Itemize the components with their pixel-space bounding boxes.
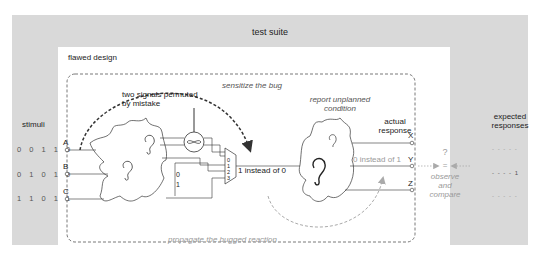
output-label-x: X xyxy=(408,131,413,140)
bug-value-label: 1 instead of 0 xyxy=(238,166,286,175)
compare-equals: = xyxy=(437,161,453,170)
constant-0: 0 xyxy=(176,170,180,179)
input-label-c: C xyxy=(63,187,69,196)
output-label-y: Y xyxy=(408,155,413,164)
input-label-a: A xyxy=(63,138,68,147)
permute-note: two signals permuted by mistake xyxy=(122,90,198,108)
input-module-blob xyxy=(90,118,167,201)
response-value-label: 0 instead of 1 xyxy=(353,155,401,164)
compare-question: ? xyxy=(437,148,453,157)
output-pin-z xyxy=(410,188,414,192)
design-graphics xyxy=(0,0,540,261)
input-pin-b xyxy=(65,172,69,176)
input-label-b: B xyxy=(63,162,68,171)
output-module-blob xyxy=(299,118,353,201)
constant-1: 1 xyxy=(176,180,180,189)
mux-input-3: 3 xyxy=(227,174,230,183)
output-pin-y xyxy=(410,164,414,168)
report-label: report unplanned condition xyxy=(300,95,380,113)
observe-compare-label: observe and compare xyxy=(425,172,465,199)
input-pin-a xyxy=(65,148,69,152)
output-label-z: Z xyxy=(408,179,413,188)
output-pin-x xyxy=(410,141,414,145)
sensitize-label: sensitize the bug xyxy=(222,81,282,90)
input-pin-c xyxy=(65,197,69,201)
propagate-label: propagate the bugged reaction xyxy=(168,235,277,244)
